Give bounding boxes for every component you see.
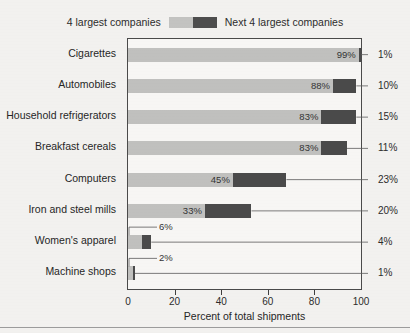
bar-row: 99% [128,48,361,62]
category-label: Machine shops [45,266,116,277]
chart-legend: 4 largest companies Next 4 largest compa… [0,14,410,30]
x-axis-tick [175,290,176,295]
x-axis-ticks [127,290,362,296]
bar-row: 33% [128,204,251,218]
bar-row [128,266,135,280]
category-label: Cigarettes [68,48,116,59]
bar-segment-4-largest: 88% [128,79,333,93]
right-value-label: 4% [378,237,392,247]
legend-swatches [169,17,217,28]
bar-segment-next-4-largest [321,110,356,124]
bottom-divider [0,327,410,328]
bar-segment-next-4-largest [359,48,361,62]
bar-value-callout: 2% [159,253,173,263]
bar-segment-4-largest: 33% [128,204,205,218]
x-axis-tick [314,290,315,295]
category-label: Household refrigerators [6,110,116,121]
x-axis-tick [268,290,269,295]
x-axis-tick [221,290,222,295]
x-axis-title: Percent of total shipments [127,311,362,322]
bar-row: 83% [128,110,356,124]
bar-value-label: 99% [337,50,356,60]
bar-segment-next-4-largest [142,235,151,249]
bar-value-label: 83% [299,144,318,154]
category-label: Women's apparel [35,235,116,246]
category-axis-labels: CigarettesAutomobilesHousehold refrigera… [0,38,122,290]
bar-segment-4-largest: 99% [128,48,359,62]
bar-value-label: 45% [211,175,230,185]
bar-segment-4-largest [128,266,133,280]
bar-row: 88% [128,79,356,93]
x-axis-tick-labels: 020406080100 [127,297,362,309]
right-value-label: 23% [378,175,398,185]
right-value-label: 11% [378,143,397,153]
legend-swatch-dark [193,17,217,28]
bar-value-label: 83% [299,112,318,122]
bar-segment-next-4-largest [333,79,356,93]
bar-row [128,235,151,249]
x-axis-tick-label: 20 [169,297,180,307]
legend-swatch-light [169,17,193,28]
bar-segment-next-4-largest [133,266,135,280]
bar-segment-4-largest: 83% [128,110,321,124]
right-value-label: 15% [378,112,398,122]
bar-segment-next-4-largest [205,204,252,218]
x-axis-tick-label: 0 [125,297,131,307]
category-label: Computers [65,173,116,184]
legend-label-next-4-largest: Next 4 largest companies [225,17,343,28]
x-axis-tick-label: 40 [216,297,227,307]
x-axis-tick-label: 60 [262,297,273,307]
bar-value-label: 33% [183,206,202,216]
legend-label-4-largest: 4 largest companies [67,17,161,28]
right-value-label: 10% [378,81,398,91]
bar-segment-4-largest: 45% [128,173,233,187]
bar-segment-next-4-largest [321,141,347,155]
category-label: Breakfast cereals [35,141,116,152]
bar-segment-4-largest [128,235,142,249]
right-value-label: 20% [378,206,398,216]
bar-segment-4-largest: 83% [128,141,321,155]
bar-row: 45% [128,173,286,187]
bar-value-label: 88% [311,81,330,91]
right-value-label: 1% [378,50,392,60]
right-value-label: 1% [378,268,392,278]
bar-segment-next-4-largest [233,173,287,187]
bar-row: 83% [128,141,347,155]
bar-value-callout: 6% [159,222,173,232]
chart-figure: 4 largest companies Next 4 largest compa… [0,0,410,333]
category-label: Automobiles [58,79,116,90]
category-label: Iron and steel mills [28,204,116,215]
x-axis-tick-label: 100 [353,297,370,307]
x-axis-tick-label: 80 [309,297,320,307]
